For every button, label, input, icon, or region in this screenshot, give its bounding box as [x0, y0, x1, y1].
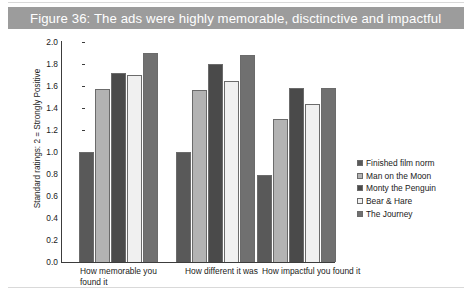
plot-bars	[62, 42, 334, 262]
page-title: Figure 36: The ads were highly memorable…	[30, 11, 441, 26]
bar-group	[79, 42, 158, 262]
chart-legend: Finished film normMan on the MoonMonty t…	[357, 157, 469, 220]
y-axis-tick-label: 1.4	[28, 103, 58, 113]
x-axis-category-label: How impactful you found it	[262, 266, 372, 277]
legend-swatch-icon	[357, 160, 363, 166]
bar	[95, 89, 110, 262]
legend-swatch-icon	[357, 211, 363, 217]
y-axis-tick-labels: 2.01.81.61.41.21.00.80.60.40.20.0	[24, 30, 58, 275]
y-axis-tick-label: 1.2	[28, 125, 58, 135]
legend-item: Bear & Hare	[357, 195, 469, 208]
legend-item-label: Finished film norm	[366, 158, 434, 168]
legend-item-label: Bear & Hare	[366, 196, 412, 206]
bar	[208, 64, 223, 262]
legend-item-label: Monty the Penguin	[366, 183, 436, 193]
y-axis-tick-label: 0.8	[28, 169, 58, 179]
bar	[273, 119, 288, 262]
bar	[224, 81, 239, 263]
legend-item: Man on the Moon	[357, 170, 469, 183]
chart-area: Standard ratings: 2 = Strongly Positive …	[0, 30, 472, 275]
bar	[289, 88, 304, 262]
bar	[111, 73, 126, 262]
bar	[143, 53, 158, 262]
legend-item: Finished film norm	[357, 157, 469, 170]
legend-item: Monty the Penguin	[357, 182, 469, 195]
y-axis-tick-label: 1.8	[28, 59, 58, 69]
bar-group	[176, 42, 255, 262]
legend-item: The Journey	[357, 207, 469, 220]
bottom-divider	[8, 287, 464, 288]
figure-container: Figure 36: The ads were highly memorable…	[0, 0, 472, 296]
bar	[192, 90, 207, 262]
bar	[240, 55, 255, 262]
legend-swatch-icon	[357, 173, 363, 179]
x-axis-line	[61, 262, 335, 263]
x-axis-category-labels: How memorable you found itHow different …	[0, 266, 472, 296]
bar	[257, 175, 272, 262]
bar	[127, 75, 142, 262]
bar	[79, 152, 94, 262]
y-axis-tick-label: 1.6	[28, 81, 58, 91]
y-axis-tick-label: 0.4	[28, 213, 58, 223]
bar-group	[257, 42, 336, 262]
legend-item-label: The Journey	[366, 209, 413, 219]
y-axis-tick-label: 1.0	[28, 147, 58, 157]
y-axis-tick-label: 0.2	[28, 235, 58, 245]
legend-item-label: Man on the Moon	[366, 171, 431, 181]
y-axis-tick-label: 0.6	[28, 191, 58, 201]
legend-swatch-icon	[357, 198, 363, 204]
bar	[321, 88, 336, 262]
figure-title-banner: Figure 36: The ads were highly memorable…	[8, 7, 464, 29]
y-axis-tick-label: 2.0	[28, 37, 58, 47]
legend-swatch-icon	[357, 185, 363, 191]
bar	[305, 104, 320, 262]
bar	[176, 152, 191, 262]
top-divider	[8, 2, 464, 3]
x-axis-category-label: How memorable you found it	[80, 266, 180, 288]
